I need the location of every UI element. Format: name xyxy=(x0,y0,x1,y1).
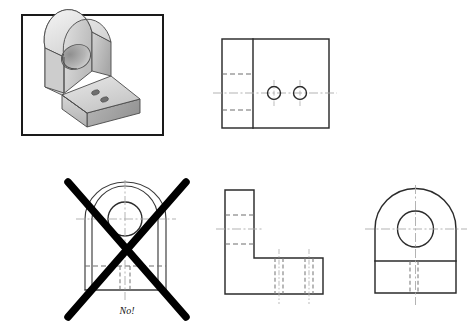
technical-drawing-figure: No! xyxy=(0,0,475,327)
right-side-view xyxy=(216,190,323,304)
front-view-correct xyxy=(365,185,467,305)
top-view xyxy=(213,39,337,128)
front-view-incorrect: No! xyxy=(68,180,186,317)
drawing-canvas: No! xyxy=(0,0,475,327)
no-annotation-label: No! xyxy=(119,305,135,316)
side-view-outline xyxy=(225,190,323,294)
top-view-outline xyxy=(222,39,329,128)
isometric-pictorial-view xyxy=(22,10,163,135)
